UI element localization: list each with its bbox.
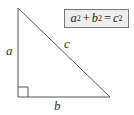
formula-equals: =	[104, 11, 111, 26]
side-a-label: a	[6, 44, 13, 57]
right-angle-marker	[18, 87, 28, 97]
side-c-label: c	[64, 37, 70, 50]
formula-term-a: a	[70, 11, 76, 26]
formula-term-c: c	[113, 11, 119, 26]
formula-plus: +	[83, 11, 90, 26]
side-b-label: b	[54, 99, 61, 112]
pythagorean-formula-box: a2 + b2 = c2	[64, 9, 129, 28]
